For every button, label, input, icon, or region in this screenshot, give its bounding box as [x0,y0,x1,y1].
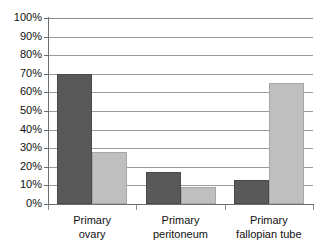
y-tick-mark-50 [44,111,48,112]
category-label-0: Primaryovary [48,213,136,241]
bar-series-b-1 [181,187,216,204]
category-label-line: fallopian tube [225,227,313,241]
y-tick-mark-90 [44,37,48,38]
category-label-1: Primaryperitoneum [136,213,224,241]
y-tick-label-20: 20% [0,161,42,172]
category-label-line: Primary [250,214,288,226]
y-tick-mark-60 [44,92,48,93]
bar-series-a-1 [146,172,181,204]
y-tick-mark-70 [44,74,48,75]
gridline-80 [48,55,313,56]
y-tick-mark-30 [44,148,48,149]
y-tick-label-10: 10% [0,179,42,190]
category-label-line: ovary [48,227,136,241]
y-tick-label-0: 0% [0,198,42,209]
gridline-100 [48,18,313,19]
category-label-line: peritoneum [136,227,224,241]
bar-series-a-2 [234,180,269,204]
y-tick-label-90: 90% [0,31,42,42]
y-tick-label-70: 70% [0,68,42,79]
bar-series-b-0 [92,152,127,204]
category-label-line: Primary [73,214,111,226]
gridline-90 [48,37,313,38]
category-label-line: Primary [162,214,200,226]
y-axis-line [48,17,49,205]
x-separator-0 [136,205,137,210]
bar-series-a-0 [57,74,92,204]
category-label-2: Primaryfallopian tube [225,213,313,241]
bar-series-b-2 [269,83,304,204]
x-separator-2 [313,205,314,210]
y-tick-label-40: 40% [0,124,42,135]
y-tick-mark-40 [44,130,48,131]
y-tick-label-100: 100% [0,12,42,23]
y-tick-label-80: 80% [0,49,42,60]
y-tick-label-50: 50% [0,105,42,116]
x-axis-line [48,204,314,205]
x-separator-start [48,205,49,210]
y-tick-mark-10 [44,185,48,186]
y-tick-mark-80 [44,55,48,56]
y-axis-tick-labels: 100%90%80%70%60%50%40%30%20%10%0% [0,0,42,252]
y-tick-label-30: 30% [0,142,42,153]
y-tick-mark-20 [44,167,48,168]
x-separator-1 [225,205,226,210]
y-tick-mark-100 [44,18,48,19]
bar-chart: 100%90%80%70%60%50%40%30%20%10%0% Primar… [0,0,326,252]
y-tick-label-60: 60% [0,86,42,97]
